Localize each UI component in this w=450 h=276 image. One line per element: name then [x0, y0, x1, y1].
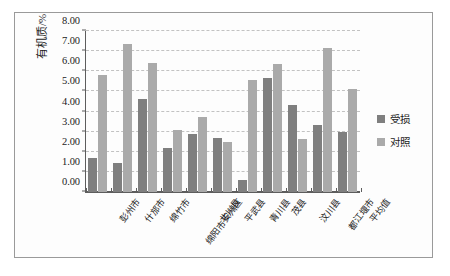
y-tick-label: 5.00 [62, 75, 80, 86]
legend-label: 对照 [390, 134, 410, 149]
bar [213, 138, 222, 192]
x-tick-mark [336, 188, 337, 192]
bar [248, 80, 257, 192]
legend-swatch-icon [377, 115, 385, 123]
bar-group [211, 31, 236, 192]
x-tick-mark [136, 188, 137, 192]
y-tick-label: 3.00 [62, 115, 80, 126]
bar [113, 163, 122, 192]
bar-group [236, 31, 261, 192]
x-axis-label: 汶川县 [316, 196, 343, 225]
x-tick-mark [211, 188, 212, 192]
x-axis-label: 茂县 [288, 196, 309, 218]
y-tick-label: 2.00 [62, 135, 80, 146]
bar [298, 139, 307, 192]
bar-group [186, 31, 211, 192]
bar [188, 134, 197, 192]
y-tick-label: 7.00 [62, 35, 80, 46]
x-tick-mark [361, 188, 362, 192]
legend-item: 对照 [377, 134, 410, 149]
y-tick-label: 0.00 [62, 176, 80, 187]
bar [173, 130, 182, 192]
bar-group [261, 31, 286, 192]
x-tick-mark [286, 188, 287, 192]
bar [163, 148, 172, 192]
bar [123, 44, 132, 192]
figure-frame: 有机质/% 0.001.002.003.004.005.006.007.008.… [14, 12, 433, 258]
bar [88, 158, 97, 192]
bar [263, 78, 272, 192]
x-axis-label: 什邡市 [141, 196, 168, 225]
x-axis-label: 平武县 [241, 196, 268, 225]
chart-legend: 受损对照 [377, 111, 410, 157]
x-tick-mark [236, 188, 237, 192]
legend-item: 受损 [377, 111, 410, 126]
bar-group [111, 31, 136, 192]
bar-group [311, 31, 336, 192]
x-tick-mark [86, 188, 87, 192]
x-axis-label: 绵竹市 [166, 196, 193, 225]
bar [98, 75, 107, 192]
bar [198, 117, 207, 192]
bar [338, 132, 347, 192]
bar [223, 142, 232, 192]
y-tick-label: 4.00 [62, 95, 80, 106]
bar [148, 63, 157, 192]
y-tick-label: 8.00 [62, 15, 80, 26]
x-tick-mark [161, 188, 162, 192]
bar [288, 105, 297, 192]
y-tick-label: 6.00 [62, 55, 80, 66]
bar [273, 64, 282, 192]
bar-group [286, 31, 311, 192]
legend-swatch-icon [377, 138, 385, 146]
x-axis-label: 彭州市 [116, 196, 143, 225]
x-tick-mark [261, 188, 262, 192]
bar [313, 125, 322, 192]
bar-group [136, 31, 161, 192]
bar [238, 180, 247, 192]
x-tick-mark [111, 188, 112, 192]
y-axis-title: 有机质/% [33, 14, 49, 59]
bar-group [336, 31, 361, 192]
legend-label: 受损 [390, 111, 410, 126]
bar [348, 89, 357, 192]
x-tick-mark [311, 188, 312, 192]
y-tick-label: 1.00 [62, 155, 80, 166]
bar [138, 99, 147, 192]
plot-area: 0.001.002.003.004.005.006.007.008.00 彭州市… [85, 31, 360, 193]
bar-group [161, 31, 186, 192]
bar-group [86, 31, 111, 192]
x-tick-mark [186, 188, 187, 192]
bar [323, 48, 332, 192]
